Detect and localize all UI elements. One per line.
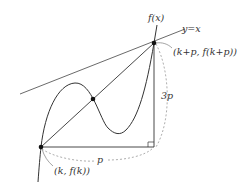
diagram-canvas: f(x) y=x (k+p, f(k+p)) 3p p (k, f(k)) [0, 0, 252, 195]
leader-bottom-point [42, 149, 53, 166]
point-bottom-left [39, 145, 44, 150]
label-vertical-length: 3p [161, 90, 173, 101]
right-angle-marker [148, 142, 154, 147]
leader-top-point [156, 43, 172, 48]
dashed-brace-p-right [108, 148, 153, 160]
dashed-brace-p-left [42, 149, 95, 161]
point-middle-intersection [91, 97, 96, 102]
label-y-equals-x: y=x [181, 23, 201, 34]
label-bottom-point: (k, f(k)) [54, 165, 90, 176]
point-top-right [152, 41, 157, 46]
label-f-of-x: f(x) [147, 12, 165, 23]
line-y-equals-x [20, 29, 185, 94]
label-horizontal-length: p [97, 154, 103, 165]
label-top-point: (k+p, f(k+p)) [173, 46, 237, 57]
